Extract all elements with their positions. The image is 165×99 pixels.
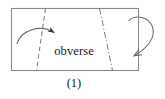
figure-container: obverse (1) xyxy=(0,0,165,99)
paper-sheet-rect xyxy=(12,9,139,71)
figure-caption: (1) xyxy=(0,76,148,90)
